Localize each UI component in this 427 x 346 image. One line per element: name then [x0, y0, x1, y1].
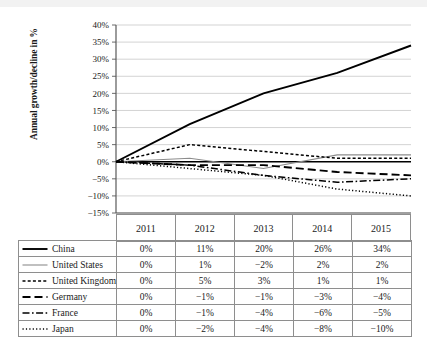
legend-label: China — [52, 244, 75, 254]
table-cell-value: 34% — [353, 241, 412, 257]
table-cell-value: 5% — [176, 273, 235, 289]
table-cell-value: −4% — [235, 305, 294, 321]
legend-entry-france: France — [19, 305, 117, 321]
table-cell-value: 26% — [294, 241, 353, 257]
table-cell-value: 3% — [235, 273, 294, 289]
chart-plot-region: Annual growth/decline in % 40%35%30%25%2… — [0, 7, 427, 217]
table-cell-value: −1% — [176, 289, 235, 305]
legend-label: Japan — [52, 324, 74, 334]
table-row: United States0%1%−2%2%2% — [19, 257, 412, 273]
table-row: Japan0%−2%−4%−8%−10% — [19, 321, 412, 337]
y-axis-tick-label: 5% — [97, 140, 110, 150]
y-axis-tick-label: 25% — [93, 71, 110, 81]
legend-line-swatch-icon — [22, 261, 48, 269]
table-cell-value: 2% — [294, 257, 353, 273]
year-header-table: 2011 2012 2013 2014 2015 — [116, 214, 411, 242]
legend-line-swatch-icon — [22, 309, 48, 317]
table-cell-value: 1% — [353, 273, 412, 289]
series-data-table: China0%11%20%26%34% United States0%1%−2%… — [18, 240, 412, 337]
table-cell-value: −2% — [176, 321, 235, 337]
y-axis-tick-label: −10% — [87, 191, 109, 201]
legend-entry-china: China — [19, 241, 117, 257]
table-row: France0%−1%−4%−6%−5% — [19, 305, 412, 321]
y-axis-tick-label: 20% — [93, 89, 110, 99]
table-cell-value: 2% — [353, 257, 412, 273]
table-row: United Kingdom0%5%3%1%1% — [19, 273, 412, 289]
table-cell-value: 0% — [117, 241, 176, 257]
table-cell-value: −1% — [235, 289, 294, 305]
table-cell-value: 0% — [117, 273, 176, 289]
y-axis-tick-label: 35% — [93, 37, 110, 47]
year-header-cell: 2013 — [234, 215, 293, 242]
table-cell-value: −10% — [353, 321, 412, 337]
table-cell-value: 0% — [117, 305, 176, 321]
table-cell-value: 0% — [117, 321, 176, 337]
table-cell-value: −1% — [176, 305, 235, 321]
legend-entry-united-kingdom: United Kingdom — [19, 273, 117, 289]
y-axis-tick-label: 30% — [93, 54, 110, 64]
table-cell-value: −6% — [294, 305, 353, 321]
table-cell-value: −4% — [353, 289, 412, 305]
top-band — [0, 0, 427, 7]
line-chart-svg: 40%35%30%25%20%15%10%5%0%−5%−10%−15% — [0, 7, 427, 217]
table-cell-value: 0% — [117, 289, 176, 305]
table-cell-value: −3% — [294, 289, 353, 305]
legend-entry-united-states: United States — [19, 257, 117, 273]
table-cell-value: 0% — [117, 257, 176, 273]
year-header-row: 2011 2012 2013 2014 2015 — [117, 215, 411, 242]
legend-line-swatch-icon — [22, 325, 48, 333]
legend-label: Germany — [52, 292, 87, 302]
legend-line-swatch-icon — [22, 245, 48, 253]
legend-line-swatch-icon — [22, 277, 48, 285]
legend-entry-japan: Japan — [19, 321, 117, 337]
legend-label: United Kingdom — [52, 276, 116, 286]
legend-entry-germany: Germany — [19, 289, 117, 305]
y-axis-tick-label: 10% — [93, 123, 110, 133]
y-axis-tick-label: 15% — [93, 106, 110, 116]
year-header-cell: 2012 — [175, 215, 234, 242]
year-header-cell: 2011 — [117, 215, 176, 242]
y-axis-tick-label: −15% — [87, 208, 109, 217]
legend-label: United States — [52, 260, 103, 270]
table-cell-value: −4% — [235, 321, 294, 337]
table-cell-value: 1% — [294, 273, 353, 289]
figure-container: Annual growth/decline in % 40%35%30%25%2… — [0, 0, 427, 346]
table-row: China0%11%20%26%34% — [19, 241, 412, 257]
legend-line-swatch-icon — [22, 293, 48, 301]
series-data-body: China0%11%20%26%34% United States0%1%−2%… — [19, 241, 412, 337]
table-cell-value: −5% — [353, 305, 412, 321]
legend-label: France — [52, 308, 78, 318]
year-header-cell: 2015 — [352, 215, 411, 242]
table-row: Germany0%−1%−1%−3%−4% — [19, 289, 412, 305]
y-axis-tick-label: 0% — [97, 157, 110, 167]
table-cell-value: 1% — [176, 257, 235, 273]
table-cell-value: 20% — [235, 241, 294, 257]
table-cell-value: −8% — [294, 321, 353, 337]
table-cell-value: 11% — [176, 241, 235, 257]
y-axis-tick-label: −5% — [92, 174, 110, 184]
y-axis-tick-label: 40% — [93, 20, 110, 30]
year-header-cell: 2014 — [293, 215, 352, 242]
table-cell-value: −2% — [235, 257, 294, 273]
